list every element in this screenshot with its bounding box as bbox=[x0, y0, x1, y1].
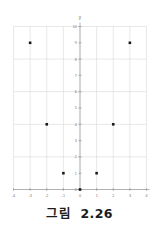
x-tick-label: -4 bbox=[12, 194, 15, 198]
scatter-plot: 012345678910 -4-3-2-101234 y bbox=[0, 0, 159, 205]
y-tick-label: 1 bbox=[75, 172, 77, 176]
y-axis-label: y bbox=[79, 15, 82, 20]
data-point bbox=[95, 172, 98, 175]
y-tick-label: 2 bbox=[75, 155, 77, 159]
y-tick-label: 8 bbox=[75, 58, 77, 62]
y-tick-label: 3 bbox=[75, 139, 77, 143]
data-point bbox=[79, 188, 82, 191]
figure-caption: 그림 2.26 bbox=[0, 203, 159, 222]
x-tick-label: 2 bbox=[112, 194, 114, 198]
x-tick-labels: -4-3-2-101234 bbox=[12, 194, 148, 198]
y-tick-labels: 012345678910 bbox=[73, 25, 77, 192]
y-tick-label: 0 bbox=[75, 188, 77, 192]
y-tick-label: 4 bbox=[75, 123, 77, 127]
data-point bbox=[62, 172, 65, 175]
x-tick-label: 1 bbox=[96, 194, 98, 198]
plot-canvas: 012345678910 -4-3-2-101234 y bbox=[0, 0, 159, 205]
y-tick-label: 6 bbox=[75, 90, 77, 94]
y-axis-name: y bbox=[79, 15, 82, 20]
data-point bbox=[29, 42, 32, 45]
figure-container: 012345678910 -4-3-2-101234 y 그림 2.26 bbox=[0, 0, 159, 231]
x-tick-label: 0 bbox=[79, 194, 81, 198]
x-tick-label: -2 bbox=[45, 194, 48, 198]
y-tick-label: 10 bbox=[73, 25, 77, 29]
x-tick-label: -1 bbox=[62, 194, 65, 198]
data-point bbox=[112, 123, 115, 126]
data-point bbox=[45, 123, 48, 126]
x-tick-label: 3 bbox=[129, 194, 131, 198]
y-tick-label: 7 bbox=[75, 74, 77, 78]
y-tick-label: 5 bbox=[75, 106, 77, 110]
y-tick-label: 9 bbox=[75, 41, 77, 45]
x-tick-label: -3 bbox=[29, 194, 32, 198]
data-point bbox=[129, 42, 132, 45]
axis-lines bbox=[14, 23, 150, 191]
x-tick-label: 4 bbox=[146, 194, 148, 198]
